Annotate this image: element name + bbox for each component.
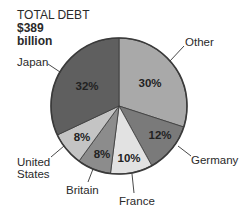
category-label-germany: Germany (191, 154, 239, 166)
category-label-us-line2: States (17, 168, 50, 180)
category-label-britain: Britain (66, 184, 99, 196)
leader-line-germany (178, 146, 191, 156)
slice-label-japan: 32% (75, 80, 98, 92)
category-label-france: France (119, 195, 155, 207)
slice-label-france: 10% (117, 152, 140, 164)
leader-line-other (170, 46, 184, 61)
leader-line-japan (48, 64, 60, 72)
leader-line-us (51, 146, 64, 157)
slice-label-germany: 12% (148, 129, 171, 141)
category-label-other: Other (185, 36, 214, 48)
pie-chart: 30% 12% 10% 8% 8% 32% Other Germany Fran… (0, 0, 250, 211)
slice-label-britain: 8% (94, 148, 111, 160)
leader-line-britain (88, 169, 93, 182)
category-label-us-line1: United (17, 156, 50, 168)
leader-line-france (132, 174, 134, 193)
slice-label-other: 30% (138, 77, 161, 89)
slice-label-us: 8% (74, 131, 91, 143)
category-label-japan: Japan (17, 56, 48, 68)
